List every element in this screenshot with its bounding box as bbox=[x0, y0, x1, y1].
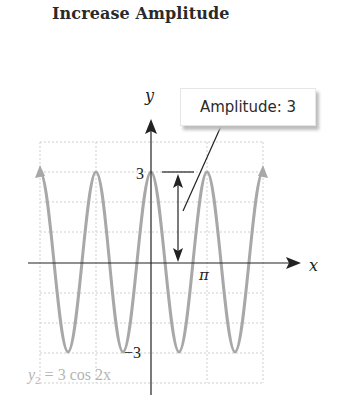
y-tick-neg3: −3 bbox=[124, 344, 141, 361]
curve-arrow-left-icon bbox=[35, 165, 45, 178]
y-axis-label: y bbox=[144, 86, 155, 105]
y-tick-3: 3 bbox=[136, 165, 144, 182]
curve-arrow-right-icon bbox=[258, 165, 268, 178]
callout-leader bbox=[183, 124, 222, 211]
amplitude-callout: Amplitude: 3 bbox=[180, 88, 316, 126]
amplitude-callout-label: Amplitude: 3 bbox=[200, 98, 296, 116]
chart-canvas: y x 3 −3 π y2 = 3 cos 2x bbox=[0, 0, 341, 407]
x-axis-label: x bbox=[309, 256, 318, 275]
x-tick-pi: π bbox=[198, 266, 210, 284]
